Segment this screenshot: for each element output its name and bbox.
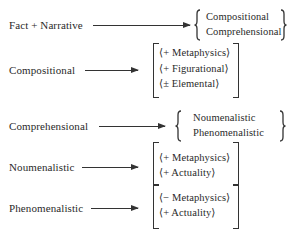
arrowhead-icon bbox=[131, 205, 139, 211]
right-bracket-icon bbox=[233, 43, 239, 98]
source-label-comprehensional: Comprehensional bbox=[9, 120, 88, 132]
right-brace-icon bbox=[280, 9, 288, 41]
arrow-icon bbox=[93, 25, 190, 26]
arrow-icon bbox=[99, 126, 165, 127]
target-compositional: Compositional bbox=[206, 11, 269, 23]
source-label-compositional: Compositional bbox=[9, 64, 75, 76]
source-label-noumenalistic: Noumenalistic bbox=[9, 161, 74, 173]
target-phenomenalistic: Phenomenalistic bbox=[193, 127, 264, 139]
arrowhead-icon bbox=[183, 22, 191, 28]
feature-metaphysics: ⟨+ Metaphysics⟩ bbox=[159, 47, 230, 59]
right-bracket-icon bbox=[233, 184, 239, 229]
arrow-icon bbox=[85, 70, 138, 71]
feature-actuality: ⟨+ Actuality⟩ bbox=[159, 167, 216, 179]
feature-figurational: ⟨+ Figurational⟩ bbox=[159, 63, 229, 75]
right-bracket-icon bbox=[233, 142, 239, 186]
right-brace-icon bbox=[279, 110, 287, 142]
arrowhead-icon bbox=[131, 67, 139, 73]
arrowhead-icon bbox=[131, 164, 139, 170]
target-comprehensional: Comprehensional bbox=[206, 26, 282, 38]
source-label-phenomenalistic: Phenomenalistic bbox=[9, 202, 83, 214]
left-bracket-icon bbox=[153, 142, 159, 186]
arrow-icon bbox=[82, 167, 138, 168]
left-brace-icon bbox=[194, 9, 202, 41]
feature-actuality: ⟨+ Actuality⟩ bbox=[159, 207, 216, 219]
feature-metaphysics: ⟨+ Metaphysics⟩ bbox=[159, 152, 230, 164]
left-brace-icon bbox=[175, 110, 183, 142]
target-noumenalistic: Noumenalistic bbox=[193, 112, 256, 124]
feature-elemental: ⟨± Elemental⟩ bbox=[159, 78, 219, 90]
feature-negative-metaphysics: ⟨− Metaphysics⟩ bbox=[159, 192, 230, 204]
source-label-fact-narrative: Fact + Narrative bbox=[9, 19, 83, 31]
arrow-icon bbox=[91, 208, 138, 209]
arrowhead-icon bbox=[158, 123, 166, 129]
